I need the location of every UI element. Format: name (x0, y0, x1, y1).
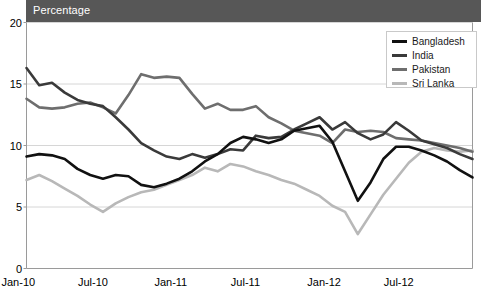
x-axis-tick-label: Jan-10 (2, 276, 36, 288)
y-axis-tick-label: 0 (16, 263, 22, 275)
legend-swatch-pakistan (392, 68, 407, 71)
legend-label-sri-lanka: Sri Lanka (412, 79, 454, 89)
series-line-bangladesh (27, 126, 473, 201)
y-axis-tick-label: 5 (16, 201, 22, 213)
y-axis-tick-label: 10 (10, 140, 22, 152)
series-line-sri-lanka (27, 148, 473, 234)
legend-label-pakistan: Pakistan (412, 65, 450, 75)
x-axis-tick-label: Jul-12 (384, 276, 414, 288)
data-series-lines (27, 68, 473, 234)
y-axis-tick-labels: 05101520 (10, 17, 27, 275)
chart-legend: Bangladesh India Pakistan Sri Lanka (386, 31, 477, 88)
legend-swatch-india (392, 54, 407, 57)
x-axis-tick-label: Jul-10 (78, 276, 108, 288)
legend-swatch-sri-lanka (392, 82, 407, 85)
percentage-line-chart: Percentage 05101520 Jan-10Jul-10Jan-11Ju… (0, 0, 481, 292)
y-axis-tick-label: 15 (10, 78, 22, 90)
x-axis-tick-label: Jul-11 (231, 276, 260, 288)
y-axis-tick-label: 20 (10, 17, 22, 29)
legend-item-sri-lanka[interactable]: Sri Lanka (392, 77, 454, 90)
legend-item-india[interactable]: India (392, 49, 434, 62)
x-axis-tick-label: Jan-12 (307, 276, 341, 288)
legend-swatch-bangladesh (392, 40, 407, 43)
legend-label-india: India (412, 51, 434, 61)
legend-item-bangladesh[interactable]: Bangladesh (392, 35, 465, 48)
legend-item-pakistan[interactable]: Pakistan (392, 63, 450, 76)
x-axis-tick-labels: Jan-10Jul-10Jan-11Jul-11Jan-12Jul-12 (2, 276, 414, 288)
legend-label-bangladesh: Bangladesh (412, 37, 465, 47)
x-axis-tick-label: Jan-11 (154, 276, 187, 288)
